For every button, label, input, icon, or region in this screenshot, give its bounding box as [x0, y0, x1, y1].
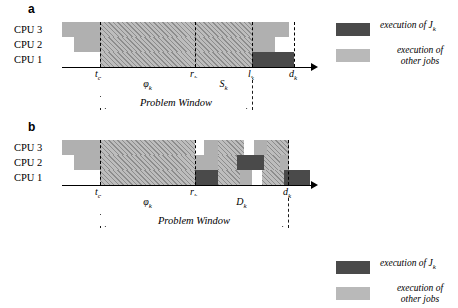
legend-panel-b: execution of Jk execution of other jobs — [336, 258, 458, 308]
legend-label-gray: execution of other jobs — [380, 283, 458, 305]
timeline-block-white — [275, 37, 310, 52]
timeline-block-gray — [62, 22, 100, 37]
cpu-label-3: CPU 3 — [14, 22, 62, 37]
timeline-block-white — [294, 52, 310, 67]
timeline-block-white — [62, 155, 74, 170]
panel-a-cpu-labels: CPU 3 CPU 2 CPU 1 — [14, 22, 62, 67]
measure-label-phi-k: φk — [100, 196, 195, 212]
legend-swatch-gray — [336, 49, 370, 62]
tick-line-lk — [252, 22, 253, 67]
tick-label-dk: dk — [289, 68, 297, 82]
timeline-block-white — [289, 22, 310, 37]
cpu-label-1: CPU 1 — [14, 170, 62, 185]
measure-phi-k: φk — [100, 200, 195, 209]
tick-line-rk — [195, 22, 196, 67]
measure-label-phi-k: φk — [100, 78, 195, 94]
timeline-block-hatch — [262, 170, 284, 185]
legend-swatch-dark — [336, 23, 370, 36]
measure-problem-window: Problem Window — [100, 219, 288, 228]
guide-lk — [252, 80, 253, 110]
timeline-block-hatch — [100, 140, 195, 155]
measure-phi-k: φk — [100, 82, 195, 91]
cpu-label-2: CPU 2 — [14, 155, 62, 170]
timeline-block-gray — [62, 140, 100, 155]
measure-d-k: Dk — [195, 200, 288, 209]
timeline-row-cpu2 — [62, 37, 294, 52]
timeline-row-cpu2 — [62, 155, 294, 170]
timeline-block-hatch — [267, 140, 289, 155]
panel-b-plot: to rk dk φk Dk Problem Window — [62, 140, 294, 186]
time-axis-arrow-icon — [311, 63, 318, 71]
timeline-block-gray — [252, 37, 275, 52]
timeline-block-white — [195, 140, 204, 155]
panel-b: b CPU 3 CPU 2 CPU 1 to rk dk — [0, 118, 458, 234]
timeline-block-white — [62, 37, 74, 52]
tick-line-dk — [294, 22, 295, 67]
legend-panel-a: execution of Jk execution of other jobs — [336, 20, 458, 72]
tick-line-rk — [195, 140, 196, 185]
timeline-block-hatch — [218, 170, 240, 185]
legend-item-dark: execution of Jk — [336, 20, 458, 46]
legend-label-dark: execution of Jk — [380, 20, 458, 35]
timeline-block-gray — [204, 140, 218, 155]
timeline-block-hatch — [264, 155, 280, 170]
timeline-block-gray — [254, 140, 267, 155]
tick-line-to — [100, 140, 101, 185]
legend-label-dark: execution of Jk — [380, 258, 458, 273]
time-axis-arrow-icon — [311, 181, 318, 189]
panel-b-cpu-labels: CPU 3 CPU 2 CPU 1 — [14, 140, 62, 185]
panel-a: a CPU 3 CPU 2 CPU 1 to rk lk dk — [0, 0, 458, 116]
timeline-block-white — [289, 155, 310, 170]
panel-a-plot: to rk lk dk φk Sk Proble — [62, 22, 294, 68]
timeline-block-hatch — [218, 140, 244, 155]
measure-s-k: Sk — [195, 82, 252, 91]
timeline-row-cpu1 — [62, 52, 294, 67]
cpu-label-2: CPU 2 — [14, 37, 62, 52]
legend-item-gray: execution of other jobs — [336, 46, 458, 72]
guide-dk — [288, 198, 289, 228]
timeline-row-cpu3 — [62, 22, 294, 37]
timeline-block-dark — [252, 52, 294, 67]
measure-problem-window: Problem Window — [100, 101, 252, 110]
tick-line-dk — [288, 140, 289, 185]
timeline-row-cpu1 — [62, 170, 294, 185]
measure-label-problem-window: Problem Window — [100, 97, 252, 108]
timeline-block-hatch — [100, 37, 252, 52]
timeline-row-cpu3 — [62, 140, 294, 155]
legend-item-dark: execution of Jk — [336, 258, 458, 284]
timeline-block-white — [62, 170, 100, 185]
cpu-label-3: CPU 3 — [14, 140, 62, 155]
tick-line-to — [100, 22, 101, 67]
timeline-block-white — [289, 140, 310, 155]
measure-label-problem-window: Problem Window — [100, 215, 288, 226]
timeline-block-hatch — [100, 155, 195, 170]
timeline-block-hatch — [100, 52, 252, 67]
timeline-block-hatch — [218, 155, 237, 170]
panel-b-letter: b — [28, 120, 35, 134]
timeline-block-gray — [74, 155, 100, 170]
timeline-block-white — [62, 52, 100, 67]
timeline-block-gray — [74, 37, 100, 52]
timeline-block-gray — [252, 22, 289, 37]
timeline-block-dark — [195, 170, 218, 185]
timeline-block-hatch — [100, 170, 195, 185]
timeline-block-gray — [195, 155, 218, 170]
cpu-label-1: CPU 1 — [14, 52, 62, 67]
timeline-block-white — [252, 170, 262, 185]
measure-label-s-k: Sk — [195, 78, 252, 94]
timeline-block-white — [244, 140, 254, 155]
timeline-block-dark — [237, 155, 264, 170]
timeline-block-hatch — [100, 22, 252, 37]
legend-label-gray: execution of other jobs — [380, 45, 458, 67]
panel-a-letter: a — [28, 2, 35, 16]
legend-item-gray: execution of other jobs — [336, 284, 458, 308]
legend-swatch-gray — [336, 287, 370, 300]
measure-label-d-k: Dk — [195, 196, 288, 212]
legend-swatch-dark — [336, 261, 370, 274]
timeline-block-gray — [240, 170, 252, 185]
